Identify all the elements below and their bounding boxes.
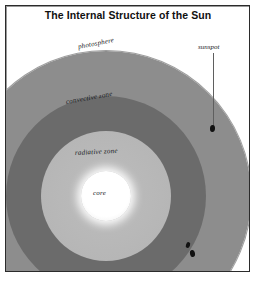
sunspot-leader-line (213, 53, 214, 129)
label-sunspot: sunspot (198, 43, 219, 51)
layer-core (81, 171, 131, 221)
label-core: core (93, 189, 106, 197)
sun-structure-figure: The Internal Structure of the Sun photos… (0, 0, 256, 281)
